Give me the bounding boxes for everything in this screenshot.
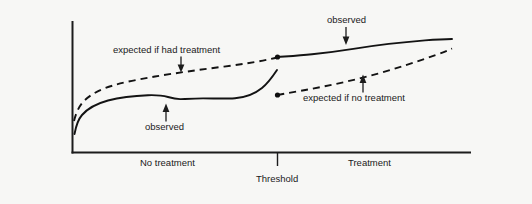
expected-if-had-treatment-arrow-head	[178, 65, 185, 73]
expected-if-no-treatment-label: expected if no treatment	[303, 92, 405, 103]
regression-discontinuity-figure: expected if had treatment observed obser…	[0, 0, 532, 204]
treatment-label: Treatment	[348, 157, 391, 168]
no-treatment-label: No treatment	[140, 157, 195, 168]
annotation-expected-if-no-treatment: expected if no treatment	[303, 75, 405, 104]
annotation-observed-upper: observed	[327, 14, 366, 45]
observed-jump-bottom-dot	[275, 92, 280, 97]
threshold-label: Threshold	[256, 173, 298, 184]
observed-lower-label: observed	[145, 121, 184, 132]
observed-upper-arrow-head	[343, 37, 350, 46]
observed-curve-right	[278, 39, 453, 57]
annotation-observed-lower: observed	[145, 104, 184, 133]
expected-if-had-treatment-curve	[74, 58, 277, 122]
axis-labels-group: No treatment Treatment Threshold	[140, 157, 391, 184]
observed-upper-label: observed	[327, 14, 366, 25]
expected-if-had-treatment-label: expected if had treatment	[113, 44, 221, 55]
figure-canvas: expected if had treatment observed obser…	[0, 0, 532, 204]
observed-lower-arrow-head	[163, 104, 170, 113]
observed-jump-top-dot	[275, 54, 280, 59]
